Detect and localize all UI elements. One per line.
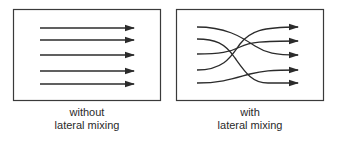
caption-line-1: with — [175, 106, 325, 119]
caption-with-lateral-mixing: with lateral mixing — [175, 106, 325, 132]
caption-line-2: lateral mixing — [175, 119, 325, 132]
parallel-arrows — [40, 28, 134, 84]
caption-line-2: lateral mixing — [12, 119, 162, 132]
arrow-2 — [197, 39, 298, 83]
panel-frame — [177, 10, 324, 101]
crossing-arrows — [197, 27, 298, 83]
arrow-3 — [197, 41, 298, 54]
arrow-5 — [197, 70, 298, 83]
panel-without-lateral-mixing — [14, 10, 161, 101]
caption-line-1: without — [12, 106, 162, 119]
panel-with-lateral-mixing — [177, 10, 324, 101]
arrow-4 — [197, 27, 298, 70]
caption-without-lateral-mixing: without lateral mixing — [12, 106, 162, 132]
